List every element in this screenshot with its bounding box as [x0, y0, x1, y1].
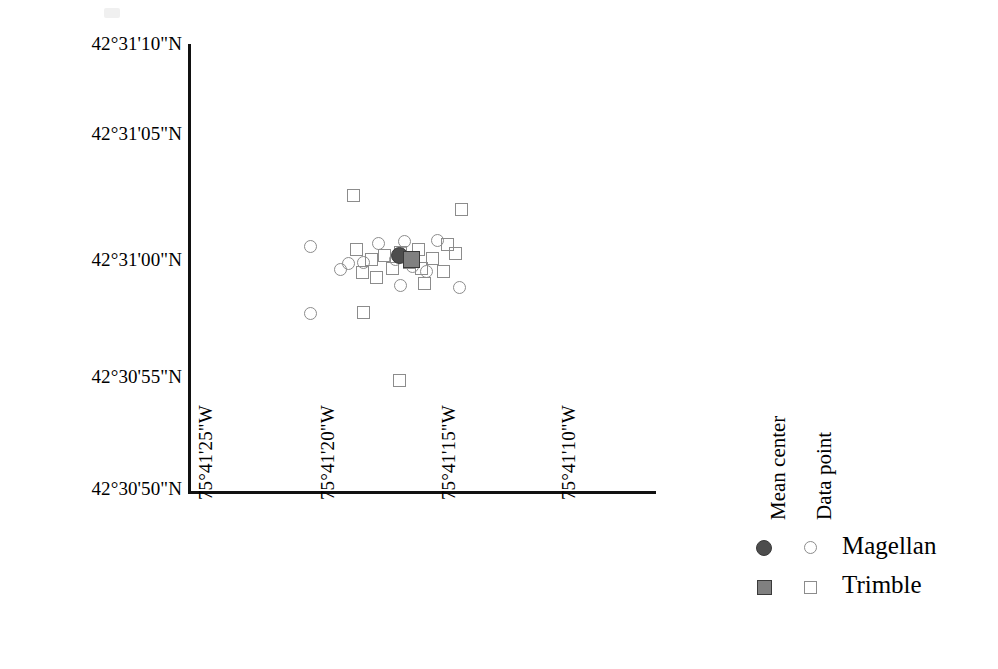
trimble-mean-center-swatch-icon — [757, 580, 772, 595]
data-point-square — [347, 189, 360, 202]
trimble-data-point-swatch-icon — [804, 581, 817, 594]
legend: Mean center Data point Magellan Trimble — [746, 392, 996, 622]
data-point-square — [449, 247, 462, 260]
legend-row-trimble[interactable]: Trimble — [746, 575, 996, 601]
scatter-plot-figure: 42°31'10"N 42°31'05"N 42°31'00"N 42°30'5… — [0, 0, 998, 669]
data-point-square — [365, 253, 378, 266]
magellan-mean-center-swatch-icon — [756, 540, 772, 556]
data-point-circle — [304, 240, 317, 253]
data-point-circle — [394, 279, 407, 292]
data-point-square — [418, 277, 431, 290]
magellan-data-point-swatch-icon — [804, 541, 817, 554]
legend-header-data-point: Data point — [814, 432, 835, 520]
data-point-circle — [453, 281, 466, 294]
data-point-square — [437, 265, 450, 278]
data-point-circle — [304, 307, 317, 320]
data-point-square — [393, 374, 406, 387]
mean-center-square — [403, 251, 420, 268]
data-point-square — [357, 306, 370, 319]
data-point-square — [356, 266, 369, 279]
data-point-circle — [342, 257, 355, 270]
data-point-square — [378, 249, 391, 262]
legend-label-trimble: Trimble — [842, 572, 922, 598]
legend-row-magellan[interactable]: Magellan — [746, 536, 996, 562]
data-point-square — [455, 203, 468, 216]
data-point-square — [350, 243, 363, 256]
data-point-square — [370, 271, 383, 284]
legend-header-mean-center: Mean center — [768, 416, 789, 520]
legend-label-magellan: Magellan — [842, 533, 936, 559]
data-point-square — [426, 252, 439, 265]
